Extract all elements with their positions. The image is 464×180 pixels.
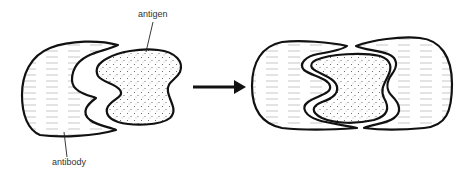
diagram-graphic xyxy=(0,0,464,180)
antibody-left xyxy=(22,42,118,137)
antigen-leader-line xyxy=(146,22,153,52)
antibody-antigen-diagram: antigen antibody xyxy=(0,0,464,180)
arrow-right-icon xyxy=(193,80,246,94)
antigen-label: antigen xyxy=(138,9,168,19)
antigen-left xyxy=(97,49,181,124)
antibody-label: antibody xyxy=(52,157,86,167)
